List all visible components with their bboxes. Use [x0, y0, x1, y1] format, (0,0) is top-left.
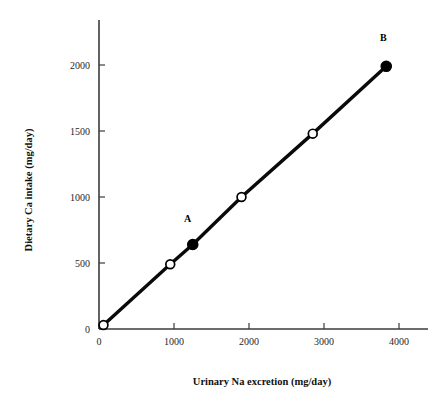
point-annotation-group: AB [184, 32, 387, 224]
y-axis-title: Dietary Ca intake (mg/day) [23, 128, 35, 251]
x-tick-label: 0 [97, 336, 102, 347]
scatter-line-chart: 050010001500200001000200030004000 AB Die… [0, 0, 446, 395]
data-point-open [166, 260, 175, 269]
tick-label-group: 050010001500200001000200030004000 [70, 60, 409, 348]
x-axis-title: Urinary Na excretion (mg/day) [193, 376, 332, 388]
y-tick-label: 0 [85, 324, 90, 335]
data-point-open [237, 193, 246, 202]
data-point-open [308, 129, 317, 138]
y-tick-label: 1000 [70, 192, 90, 203]
data-point-open [99, 321, 108, 330]
point-label-a: A [184, 213, 192, 224]
x-tick-label: 3000 [314, 336, 334, 347]
x-tick-label: 1000 [164, 336, 184, 347]
y-tick-label: 500 [75, 258, 90, 269]
chart-container: 050010001500200001000200030004000 AB Die… [0, 0, 446, 395]
point-label-b: B [380, 32, 387, 43]
data-point-filled [381, 61, 391, 71]
data-point-filled [188, 239, 198, 249]
y-tick-label: 1500 [70, 126, 90, 137]
x-tick-label: 4000 [389, 336, 409, 347]
x-tick-label: 2000 [239, 336, 259, 347]
y-tick-label: 2000 [70, 60, 90, 71]
